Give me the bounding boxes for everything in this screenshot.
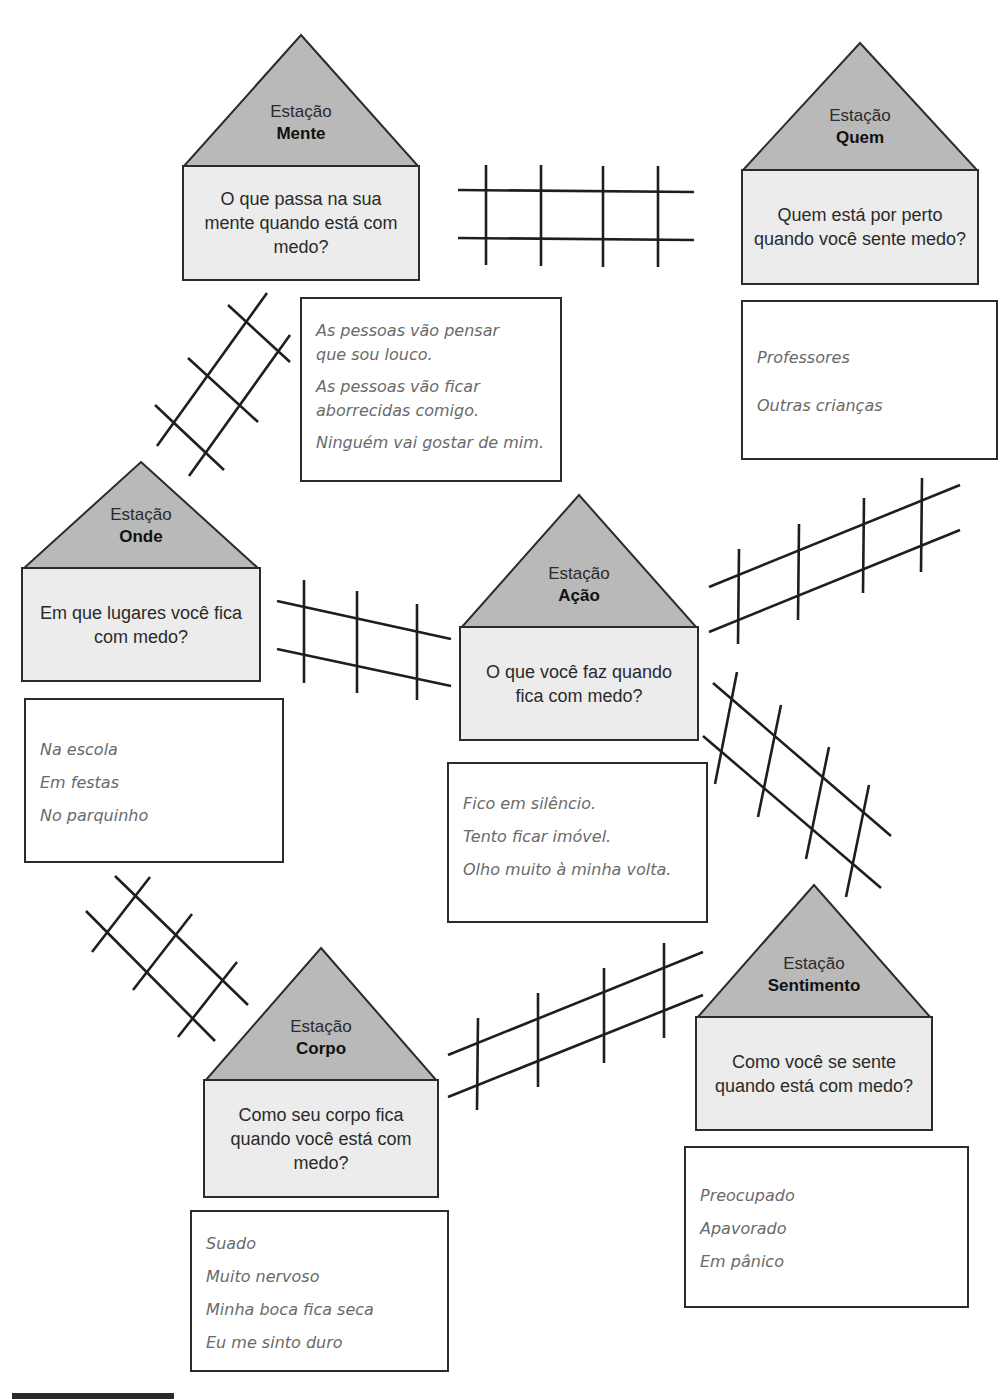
station-mente: Estação Mente O que passa na sua mente q… (182, 33, 420, 281)
answer-line: Apavorado (700, 1217, 953, 1241)
station-question: Como seu corpo fica quando você está com… (203, 1079, 439, 1198)
track-corpo-sentimento (448, 943, 703, 1110)
answer-line: Ninguém vai gostar de mim. (316, 431, 546, 455)
answer-line: Em pânico (700, 1250, 953, 1274)
answer-box-acao: Fico em silêncio. Tento ficar imóvel. Ol… (447, 762, 708, 923)
answer-line: Preocupado (700, 1184, 953, 1208)
answer-box-quem: Professores Outras crianças (741, 300, 998, 460)
station-label: Estação (21, 504, 261, 526)
track-onde-acao (277, 580, 451, 700)
station-title: Estação Sentimento (695, 953, 933, 997)
track-mente-quem (458, 165, 694, 267)
station-onde: Estação Onde Em que lugares você fica co… (21, 460, 261, 682)
station-label: Estação (182, 101, 420, 123)
answer-box-sentimento: Preocupado Apavorado Em pânico (684, 1146, 969, 1308)
station-name: Quem (741, 127, 979, 149)
answer-line: Minha boca fica seca (206, 1298, 433, 1322)
roof-icon (695, 883, 933, 1019)
station-name: Sentimento (695, 975, 933, 997)
answer-line: Muito nervoso (206, 1265, 433, 1289)
track-mente-onde (155, 293, 290, 476)
roof-icon (182, 33, 420, 167)
station-title: Estação Mente (182, 101, 420, 145)
answer-line: As pessoas vão pensar (316, 319, 546, 343)
answer-line: Outras crianças (757, 394, 982, 418)
station-question: Como você se sente quando está com medo? (695, 1016, 933, 1131)
station-label: Estação (741, 105, 979, 127)
track-acao-sentimento (703, 672, 891, 897)
roof-icon (203, 946, 439, 1082)
answer-line: Na escola (40, 738, 268, 762)
station-question: O que passa na sua mente quando está com… (182, 165, 420, 281)
answer-line: Em festas (40, 771, 268, 795)
station-name: Corpo (203, 1038, 439, 1060)
answer-line: As pessoas vão ficar (316, 375, 546, 399)
answer-line: Olho muito à minha volta. (463, 858, 692, 882)
answer-line: Fico em silêncio. (463, 792, 692, 816)
answer-line: Suado (206, 1232, 433, 1256)
station-name: Mente (182, 123, 420, 145)
station-title: Estação Corpo (203, 1016, 439, 1060)
answer-line: Professores (757, 346, 982, 370)
station-title: Estação Quem (741, 105, 979, 149)
answer-box-corpo: Suado Muito nervoso Minha boca fica seca… (190, 1210, 449, 1372)
answer-line: que sou louco. (316, 343, 546, 367)
station-question: O que você faz quando fica com medo? (459, 626, 699, 741)
station-name: Onde (21, 526, 261, 548)
station-sentimento: Estação Sentimento Como você se sente qu… (695, 883, 933, 1131)
answer-line: aborrecidas comigo. (316, 399, 546, 423)
footer-bar (12, 1393, 174, 1399)
station-corpo: Estação Corpo Como seu corpo fica quando… (203, 946, 439, 1198)
answer-line: Eu me sinto duro (206, 1331, 433, 1355)
station-title: Estação Onde (21, 504, 261, 548)
answer-box-mente: As pessoas vão pensar que sou louco. As … (300, 297, 562, 482)
roof-icon (459, 493, 699, 629)
station-acao: Estação Ação O que você faz quando fica … (459, 493, 699, 741)
station-label: Estação (459, 563, 699, 585)
station-name: Ação (459, 585, 699, 607)
station-quem: Estação Quem Quem está por perto quando … (741, 41, 979, 285)
answer-line: Tento ficar imóvel. (463, 825, 692, 849)
station-question: Quem está por perto quando você sente me… (741, 169, 979, 285)
station-label: Estação (695, 953, 933, 975)
answer-box-onde: Na escola Em festas No parquinho (24, 698, 284, 863)
answer-line: No parquinho (40, 804, 268, 828)
station-label: Estação (203, 1016, 439, 1038)
station-title: Estação Ação (459, 563, 699, 607)
track-acao-quem (709, 478, 960, 644)
station-question: Em que lugares você fica com medo? (21, 567, 261, 682)
